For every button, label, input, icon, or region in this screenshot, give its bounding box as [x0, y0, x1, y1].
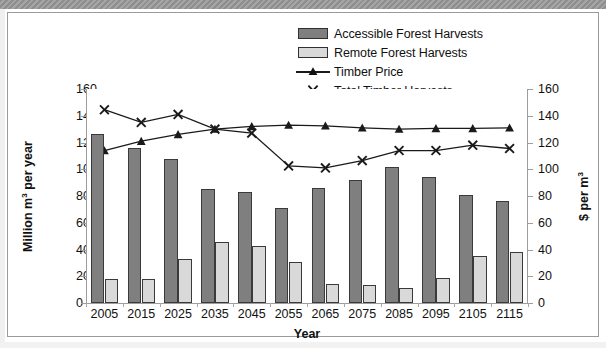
- bar-accessible-forest-harvests: [459, 195, 473, 303]
- y-tick-label-right: 60: [538, 216, 552, 230]
- x-tick-label: 2015: [127, 307, 155, 321]
- y-tick-label-right: 120: [538, 136, 559, 150]
- x-tick-label: 2095: [422, 307, 450, 321]
- y-tick-mark-right: [527, 276, 533, 277]
- y-axis-title-left-suffix: per year: [21, 141, 35, 193]
- y-tick-mark-left: [81, 196, 86, 197]
- legend-item[interactable]: Accessible Forest Harvests: [295, 25, 483, 42]
- y-tick-mark-left: [81, 223, 86, 224]
- legend-key-swatch: [295, 44, 331, 61]
- marker-cross-icon: [100, 105, 109, 114]
- legend-item[interactable]: Remote Forest Harvests: [295, 44, 483, 61]
- y-tick-mark-left: [81, 143, 86, 144]
- legend-item-label: Timber Price: [331, 65, 403, 79]
- chart-legend: Accessible Forest HarvestsRemote Forest …: [295, 25, 483, 99]
- x-tick-label: 2055: [275, 307, 303, 321]
- scan-artifact-top: [0, 0, 606, 9]
- y-tick-mark-left: [81, 116, 86, 117]
- y-axis-title-right-prefix: $ per m: [577, 176, 591, 220]
- bar-remote-forest-harvests: [289, 262, 303, 303]
- legend-item[interactable]: Timber Price: [295, 63, 483, 80]
- y-tick-label-right: 80: [538, 189, 552, 203]
- y-tick-mark-left: [81, 169, 86, 170]
- y-tick-mark-right: [527, 89, 533, 90]
- x-axis-tick-labels: 2005201520252035204520552065207520852095…: [86, 307, 528, 323]
- bar-accessible-forest-harvests: [164, 159, 178, 303]
- y-axis-title-right: $ per m3: [574, 89, 592, 304]
- bar-accessible-forest-harvests: [275, 208, 289, 303]
- x-tick-label: 2115: [496, 307, 523, 321]
- bar-remote-forest-harvests: [142, 279, 156, 303]
- y-axis-title-left-sup: 3: [19, 193, 28, 197]
- chart-frame: Accessible Forest HarvestsRemote Forest …: [7, 12, 599, 337]
- bar-accessible-forest-harvests: [238, 192, 252, 303]
- bar-remote-forest-harvests: [252, 246, 266, 304]
- bar-accessible-forest-harvests: [312, 188, 326, 303]
- triangle-marker-icon: [309, 67, 318, 75]
- legend-key-line: [295, 63, 331, 80]
- x-tick-label: 2025: [164, 307, 192, 321]
- y-tick-mark-left: [81, 89, 86, 90]
- y-axis-title-left: Million m3 per year: [18, 89, 36, 304]
- y-tick-label-right: 0: [538, 296, 545, 310]
- y-tick-label-right: 100: [538, 162, 559, 176]
- x-tick-label: 2075: [348, 307, 376, 321]
- bar-remote-forest-harvests: [215, 242, 229, 303]
- x-tick-label: 2065: [312, 307, 340, 321]
- bar-remote-forest-harvests: [105, 279, 119, 303]
- x-tick-mark: [528, 303, 529, 307]
- marker-cross-icon: [174, 110, 183, 119]
- y-tick-label-right: 140: [538, 109, 559, 123]
- y-tick-mark-right: [527, 143, 533, 144]
- y-tick-mark-left: [81, 276, 86, 277]
- x-axis-title: Year: [86, 327, 528, 341]
- bar-remote-forest-harvests: [178, 259, 192, 303]
- legend-item-label: Remote Forest Harvests: [331, 46, 467, 60]
- x-tick-label: 2085: [385, 307, 413, 321]
- x-tick-label: 2005: [91, 307, 119, 321]
- marker-cross-icon: [137, 118, 146, 127]
- bar-remote-forest-harvests: [399, 288, 413, 303]
- legend-line-timber-price: [296, 65, 330, 78]
- y-tick-label-right: 160: [538, 82, 559, 96]
- legend-item-label: Accessible Forest Harvests: [331, 27, 483, 41]
- y-tick-mark-left: [81, 250, 86, 251]
- y-tick-mark-right: [527, 116, 533, 117]
- y-axis-title-left-prefix: Million m: [21, 198, 35, 252]
- bar-accessible-forest-harvests: [201, 189, 215, 303]
- x-tick-label: 2105: [459, 307, 487, 321]
- y-axis-title-right-sup: 3: [575, 172, 584, 176]
- bar-remote-forest-harvests: [326, 284, 340, 303]
- bar-accessible-forest-harvests: [385, 167, 399, 303]
- y-tick-mark-right: [527, 223, 533, 224]
- y-tick-mark-right: [527, 250, 533, 251]
- legend-swatch-remote-icon: [298, 47, 328, 58]
- bar-remote-forest-harvests: [473, 256, 487, 303]
- bar-remote-forest-harvests: [363, 285, 377, 303]
- bar-remote-forest-harvests: [436, 278, 450, 303]
- x-tick-label: 2035: [201, 307, 229, 321]
- line-timber-price: [104, 125, 509, 150]
- bar-accessible-forest-harvests: [496, 201, 510, 303]
- y-tick-label-right: 20: [538, 269, 552, 283]
- y-tick-mark-right: [527, 169, 533, 170]
- bar-accessible-forest-harvests: [91, 134, 105, 303]
- scan-artifact-left: [0, 9, 5, 348]
- legend-key-swatch: [295, 25, 331, 42]
- y-tick-mark-right: [527, 196, 533, 197]
- bar-accessible-forest-harvests: [422, 177, 436, 303]
- y-tick-label-right: 40: [538, 243, 552, 257]
- bar-accessible-forest-harvests: [128, 148, 142, 303]
- x-tick-label: 2045: [238, 307, 266, 321]
- scan-artifact-bottom: [0, 342, 606, 348]
- bar-remote-forest-harvests: [510, 252, 524, 303]
- plot-area: [86, 89, 528, 304]
- legend-swatch-accessible-icon: [298, 28, 328, 39]
- bar-accessible-forest-harvests: [349, 180, 363, 303]
